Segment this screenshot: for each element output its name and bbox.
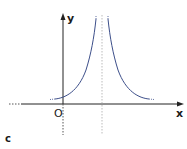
function-graph: y O x c	[0, 0, 187, 149]
curve-left-dotted-tail	[50, 99, 55, 100]
y-axis-label: y	[67, 12, 74, 25]
origin-label: O	[54, 107, 63, 120]
x-axis-label: x	[176, 107, 183, 120]
panel-label: c	[5, 133, 11, 144]
curve-left-branch	[55, 19, 96, 99]
curve-right-branch	[108, 19, 149, 99]
curve-right-dotted-tail	[149, 99, 154, 100]
y-axis-arrow-icon	[61, 13, 66, 20]
x-axis-arrow-icon	[177, 102, 184, 107]
